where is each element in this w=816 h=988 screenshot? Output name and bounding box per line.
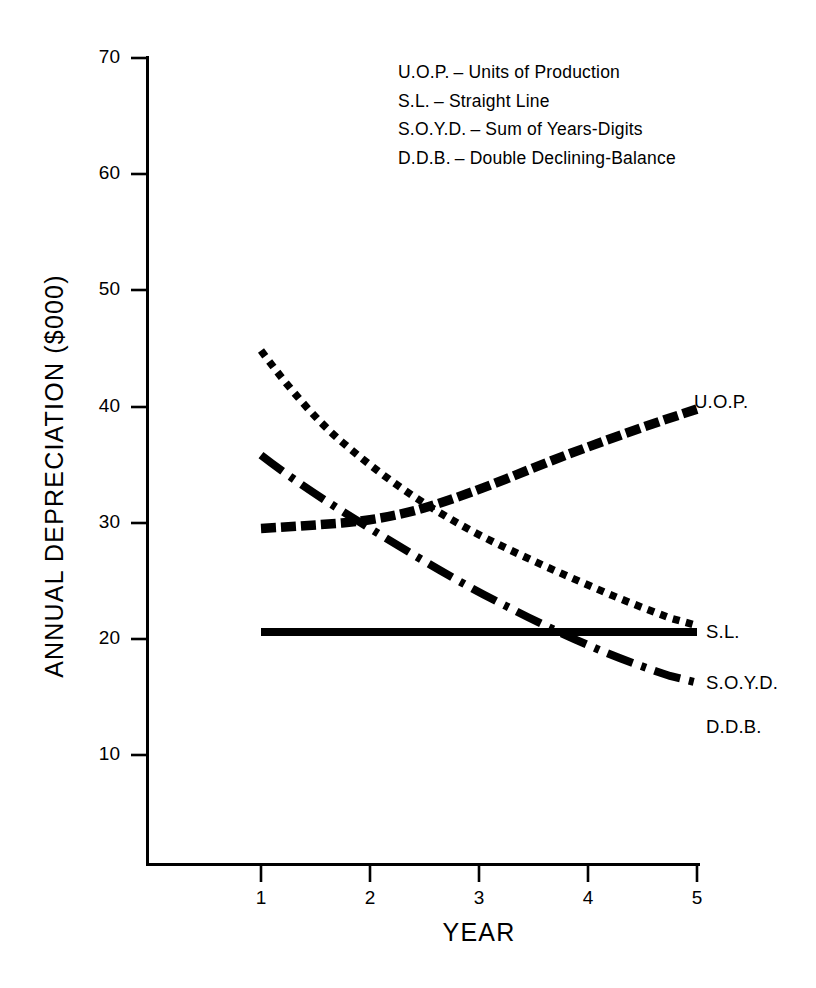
legend-abbr-uop: U.O.P. [398, 58, 449, 87]
legend-item-ddb: D.D.B.–Double Declining-Balance [398, 144, 676, 173]
x-axis-ticks [261, 864, 697, 882]
x-tick-label-5: 5 [682, 887, 712, 909]
legend-name-sl: Straight Line [449, 87, 550, 116]
legend-abbr-soyd: S.O.Y.D. [398, 115, 466, 144]
x-tick-label-1: 1 [246, 887, 276, 909]
y-tick-label-30: 30 [76, 511, 120, 533]
y-axis-ticks [131, 58, 147, 755]
legend-abbr-ddb: D.D.B. [398, 144, 451, 173]
legend-item-sl: S.L.–Straight Line [398, 87, 676, 116]
legend: U.O.P.–Units of Production S.L.–Straight… [398, 58, 676, 172]
y-tick-label-40: 40 [76, 395, 120, 417]
y-tick-label-10: 10 [76, 743, 120, 765]
series-end-label-uop: U.O.P. [694, 391, 748, 413]
x-tick-label-4: 4 [573, 887, 603, 909]
legend-name-uop: Units of Production [468, 58, 620, 87]
y-tick-label-50: 50 [76, 278, 120, 300]
x-axis-title: YEAR [261, 918, 697, 947]
legend-dash-1: – [430, 87, 449, 116]
y-tick-label-60: 60 [76, 162, 120, 184]
y-tick-label-70: 70 [76, 46, 120, 68]
x-tick-label-2: 2 [355, 887, 385, 909]
series-end-label-ddb: D.D.B. [706, 716, 762, 738]
legend-dash-2: – [466, 115, 485, 144]
legend-item-soyd: S.O.Y.D.–Sum of Years-Digits [398, 115, 676, 144]
legend-name-soyd: Sum of Years-Digits [485, 115, 642, 144]
legend-abbr-sl: S.L. [398, 87, 430, 116]
series-end-label-soyd: S.O.Y.D. [706, 672, 778, 694]
depreciation-chart-figure: ANNUAL DEPRECIATION ($000) [0, 0, 816, 988]
x-tick-label-3: 3 [464, 887, 494, 909]
legend-item-uop: U.O.P.–Units of Production [398, 58, 676, 87]
legend-dash-3: – [451, 144, 470, 173]
legend-dash-0: – [449, 58, 468, 87]
series-end-label-sl: S.L. [706, 621, 740, 643]
y-tick-label-20: 20 [76, 627, 120, 649]
legend-name-ddb: Double Declining-Balance [470, 144, 676, 173]
